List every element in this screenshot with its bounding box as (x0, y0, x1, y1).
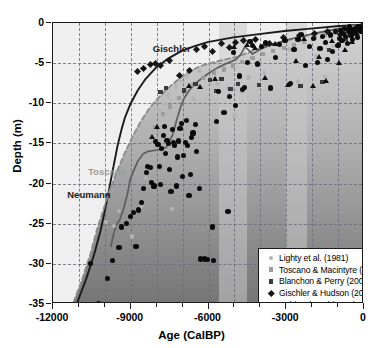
y-tick-label: -25 (4, 217, 44, 229)
annotation-neumann: Neumann (67, 189, 110, 200)
x-tick (285, 303, 286, 309)
legend-label: Lighty et al. (1981) (279, 253, 348, 263)
y-tick-label: -35 (4, 297, 44, 309)
annotation-gischler: Gischler (153, 43, 191, 54)
y-tick (46, 223, 51, 224)
x-tick (208, 303, 209, 309)
y-tick (46, 263, 51, 264)
legend-item-1[interactable]: Lighty et al. (1981) (263, 252, 363, 264)
x-tick (363, 303, 364, 309)
legend-label: Hubbard et al (2005) (279, 300, 356, 303)
x-tick-label: 0 (360, 311, 366, 323)
x-tick-label: -3000 (272, 311, 299, 323)
y-tick (46, 22, 51, 23)
x-tick (233, 303, 234, 307)
x-tick (130, 303, 131, 309)
y-tick-label: 0 (4, 16, 44, 28)
x-tick (104, 303, 105, 307)
legend[interactable]: Lighty et al. (1981)Toscano & Macintyre … (258, 248, 363, 303)
x-tick-label: -6000 (194, 311, 221, 323)
legend-label: Toscano & Macintyre (2003) (279, 265, 363, 275)
x-tick (78, 303, 79, 307)
figure-container: GischlerToscanoNeumann Lighty et al. (19… (0, 0, 383, 348)
legend-item-5[interactable]: Hubbard et al (2005) (263, 299, 363, 303)
x-tick-label: -9000 (116, 311, 143, 323)
y-tick-label: -10 (4, 96, 44, 108)
x-tick (156, 303, 157, 307)
x-tick (182, 303, 183, 307)
legend-marker-square-icon (263, 267, 279, 272)
y-tick (46, 183, 51, 184)
legend-item-4[interactable]: Gischler & Hudson (2004) (263, 287, 363, 299)
plot-area: GischlerToscanoNeumann Lighty et al. (19… (52, 22, 363, 303)
x-tick (52, 303, 53, 309)
legend-marker-diamond-icon (263, 291, 279, 296)
legend-item-2[interactable]: Toscano & Macintyre (2003) (263, 264, 363, 276)
legend-marker-circle-icon (263, 256, 279, 261)
x-tick (311, 303, 312, 307)
legend-marker-triangle-icon (263, 302, 279, 303)
y-tick-label: -15 (4, 136, 44, 148)
legend-label: Gischler & Hudson (2004) (279, 288, 363, 298)
y-tick-label: -5 (4, 56, 44, 68)
legend-label: Blanchon & Perry (2004) (279, 276, 363, 286)
legend-item-3[interactable]: Blanchon & Perry (2004) (263, 276, 363, 288)
x-tick (337, 303, 338, 307)
legend-marker-square-icon (263, 279, 279, 284)
y-tick (46, 62, 51, 63)
x-tick (259, 303, 260, 307)
x-axis-title: Age (CalBP) (0, 329, 383, 341)
y-tick (46, 303, 51, 304)
y-tick (46, 102, 51, 103)
annotation-toscano: Toscano (88, 166, 126, 177)
y-tick-label: -20 (4, 177, 44, 189)
y-tick (46, 142, 51, 143)
x-tick-label: -12000 (36, 311, 69, 323)
y-tick-label: -30 (4, 257, 44, 269)
